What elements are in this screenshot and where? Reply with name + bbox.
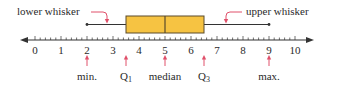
q1-arrow-head-icon (124, 55, 128, 60)
upper-whisker-label: upper whisker (246, 6, 309, 17)
tick-label: 6 (188, 45, 194, 56)
number-line (20, 36, 314, 43)
tick-label: 5 (162, 45, 168, 56)
min-label: min. (77, 71, 97, 82)
q1-label: Q1 (120, 71, 132, 84)
tick-label: 7 (214, 45, 220, 56)
q3-label: Q3 (198, 71, 210, 84)
axis-left-arrow-icon (20, 37, 28, 43)
box-plot-diagram: lower whisker upper whisker 012345678910… (0, 0, 338, 90)
q1-label-text: Q (120, 70, 128, 82)
max-point-dot (268, 23, 271, 26)
tick-label: 0 (32, 45, 38, 56)
axis-right-arrow-icon (306, 37, 314, 43)
tick-label: 8 (240, 45, 246, 56)
tick-label: 1 (58, 45, 64, 56)
q3-label-text: Q (198, 70, 206, 82)
min-point-dot (86, 23, 89, 26)
median-label: median (149, 71, 181, 82)
tick-label: 10 (290, 45, 301, 56)
q3-label-subscript: 3 (206, 75, 210, 84)
q3-arrow-head-icon (202, 55, 206, 60)
tick-label: 9 (266, 45, 272, 56)
tick-label: 2 (84, 45, 90, 56)
tick-label: 4 (136, 45, 142, 56)
lower-whisker-callout (91, 12, 107, 20)
box-and-whiskers (86, 16, 271, 33)
lower-whisker-callout-head-icon (105, 19, 109, 24)
q1-label-subscript: 1 (128, 75, 132, 84)
upper-whisker-callout-head-icon (224, 19, 228, 24)
tick-label: 3 (110, 45, 116, 56)
lower-whisker-label: lower whisker (17, 6, 80, 17)
max-label: max. (258, 71, 280, 82)
upper-whisker-callout (226, 12, 242, 20)
